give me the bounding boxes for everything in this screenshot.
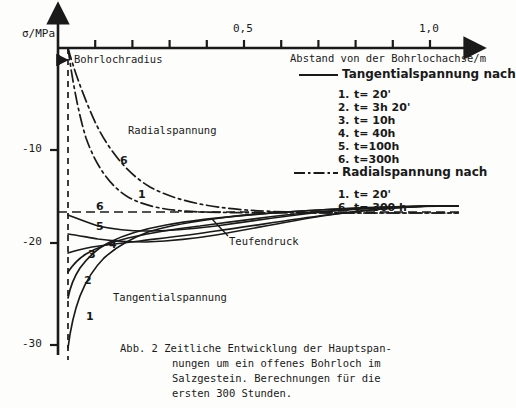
- caption-line-2: nungen um ein offenes Bohrloch im: [120, 356, 420, 371]
- legend-item-text: t= 40h: [354, 127, 395, 140]
- teufendruck-label: Teufendruck: [229, 236, 299, 247]
- curve-number-6-radial: 6: [120, 155, 128, 167]
- legend-list-tangential: 1. t= 20' 2. t= 3h 20' 3. t= 10h 4. t= 4…: [338, 88, 410, 166]
- legend-item-index: 6.: [338, 153, 354, 165]
- tangentialspannung-label: Tangentialspannung: [113, 292, 227, 303]
- y-tick-label-minus30: -30: [22, 338, 42, 350]
- x-tick-label-10: 1,0: [419, 23, 439, 35]
- legend-item: 3. t= 10h: [338, 114, 410, 127]
- legend-item-index: 1.: [338, 88, 354, 100]
- curve-number-1-tangential: 1: [86, 311, 94, 323]
- legend-list-radial: 1. t= 20' 6. t= 300 h: [338, 188, 407, 214]
- x-tick-label-05: 0,5: [233, 23, 253, 35]
- caption-line-1: Abb. 2 Zeitliche Entwicklung der Hauptsp…: [120, 341, 420, 356]
- legend-item-index: 2.: [338, 101, 354, 113]
- legend-item: 6. t= 300 h: [338, 201, 407, 214]
- curve-number-3: 3: [88, 249, 96, 261]
- curve-number-6: 6: [96, 201, 104, 213]
- figure-caption: Abb. 2 Zeitliche Entwicklung der Hauptsp…: [120, 341, 420, 401]
- curve-number-4: 4: [109, 239, 117, 251]
- legend-item-index: 4.: [338, 127, 354, 139]
- caption-line-4: ersten 300 Stunden.: [120, 386, 420, 401]
- curve-number-1-radial: 1: [138, 189, 146, 201]
- legend-item-index: 3.: [338, 114, 354, 126]
- y-tick-label-minus20: -20: [22, 236, 42, 248]
- legend-item-text: t= 3h 20': [354, 101, 410, 114]
- legend-item-text: t=100h: [354, 140, 399, 153]
- caption-line-3: Salzgestein. Berechnungen für die: [120, 371, 420, 386]
- legend-item-index: 1.: [338, 188, 354, 200]
- curve-number-2: 2: [84, 275, 92, 287]
- legend-item-text: t= 20': [354, 88, 391, 101]
- y-tick-label-minus10: -10: [22, 143, 42, 155]
- legend-item-index: 6.: [338, 201, 354, 213]
- legend-header-tangential: Tangentialspannung nach: [342, 68, 516, 81]
- legend-item: 2. t= 3h 20': [338, 101, 410, 114]
- borehole-radius-label: Bohrlochradius: [74, 54, 163, 65]
- legend-item-index: 5.: [338, 140, 354, 152]
- legend-item-text: t= 300 h: [354, 201, 407, 214]
- legend-item: 4. t= 40h: [338, 127, 410, 140]
- x-axis-name-label: Abstand von der Bohrlochachse/m: [290, 53, 486, 64]
- legend-item: 1. t= 20': [338, 88, 410, 101]
- radialspannung-label: Radialspannung: [128, 125, 217, 136]
- legend-item: 5. t=100h: [338, 140, 410, 153]
- legend-item: 1. t= 20': [338, 188, 407, 201]
- tangential-curves: [68, 206, 458, 348]
- legend-item-text: t= 10h: [354, 114, 395, 127]
- legend-header-radial: Radialspannung nach: [342, 166, 487, 179]
- curve-number-5: 5: [96, 221, 104, 233]
- y-axis-unit-label: σ/MPa: [22, 28, 55, 40]
- legend-item-text: t= 20': [354, 188, 391, 201]
